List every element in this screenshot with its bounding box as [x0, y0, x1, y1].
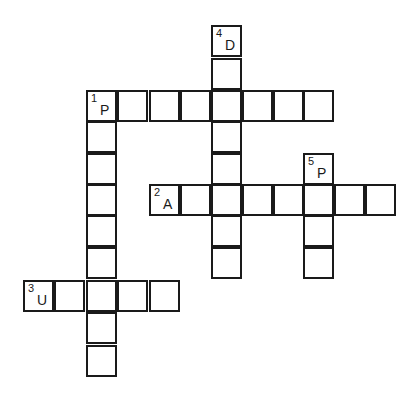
crossword-cell[interactable]	[303, 215, 334, 247]
crossword-cell[interactable]	[334, 184, 365, 216]
cell-letter: A	[163, 197, 172, 211]
cell-letter: U	[37, 293, 47, 307]
crossword-cell[interactable]	[273, 184, 304, 216]
clue-number: 1	[91, 93, 97, 104]
crossword-cell[interactable]	[211, 90, 242, 122]
crossword-cell[interactable]	[273, 90, 304, 122]
crossword-cell[interactable]	[149, 90, 180, 122]
crossword-cell-clue-2[interactable]: 2A	[149, 184, 180, 216]
clue-number: 4	[216, 28, 222, 39]
crossword-cell[interactable]	[54, 280, 85, 312]
crossword-cell[interactable]	[303, 184, 334, 216]
crossword-grid: 1P2A3U4D5P	[0, 0, 416, 397]
crossword-cell[interactable]	[211, 153, 242, 185]
crossword-cell[interactable]	[86, 153, 117, 185]
crossword-cell[interactable]	[242, 90, 273, 122]
crossword-cell[interactable]	[86, 184, 117, 216]
crossword-cell-clue-3[interactable]: 3U	[23, 280, 54, 312]
crossword-cell[interactable]	[117, 280, 148, 312]
crossword-cell[interactable]	[86, 312, 117, 344]
crossword-cell[interactable]	[86, 247, 117, 279]
crossword-cell[interactable]	[117, 90, 148, 122]
cell-letter: P	[317, 166, 326, 180]
crossword-cell[interactable]	[86, 215, 117, 247]
crossword-cell[interactable]	[86, 345, 117, 377]
crossword-cell[interactable]	[86, 121, 117, 153]
crossword-cell[interactable]	[86, 280, 117, 312]
clue-number: 5	[308, 156, 314, 167]
crossword-cell[interactable]	[211, 215, 242, 247]
crossword-cell[interactable]	[211, 247, 242, 279]
crossword-cell[interactable]	[242, 184, 273, 216]
crossword-cell[interactable]	[211, 58, 242, 90]
crossword-cell[interactable]	[149, 280, 180, 312]
cell-letter: P	[100, 103, 109, 117]
crossword-cell[interactable]	[211, 121, 242, 153]
clue-number: 3	[28, 283, 34, 294]
crossword-cell-clue-1[interactable]: 1P	[86, 90, 117, 122]
crossword-cell[interactable]	[365, 184, 396, 216]
crossword-cell[interactable]	[211, 184, 242, 216]
cell-letter: D	[225, 38, 235, 52]
crossword-cell[interactable]	[303, 90, 334, 122]
crossword-cell-clue-4[interactable]: 4D	[211, 25, 242, 57]
clue-number: 2	[154, 187, 160, 198]
crossword-cell[interactable]	[180, 90, 211, 122]
crossword-cell-clue-5[interactable]: 5P	[303, 153, 334, 185]
crossword-cell[interactable]	[180, 184, 211, 216]
crossword-cell[interactable]	[303, 247, 334, 279]
